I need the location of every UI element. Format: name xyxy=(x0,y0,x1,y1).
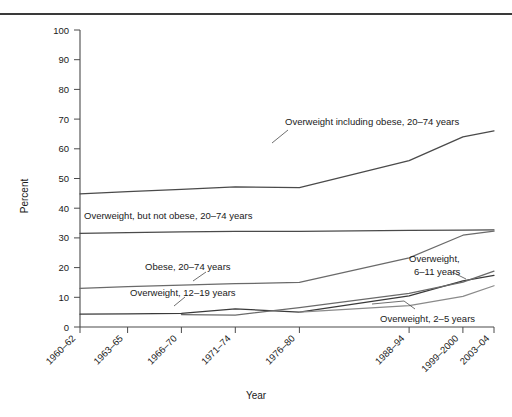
x-tick-label-1976-80: 1976–80 xyxy=(263,333,297,367)
series-line-overweight-including-obese xyxy=(80,131,494,194)
y-tick-label-90: 90 xyxy=(58,54,69,65)
x-tick-label-1999-2000: 1999–2000 xyxy=(419,333,460,374)
leader-overweight-12-19 xyxy=(174,297,185,306)
x-tick-label-1971-74: 1971–74 xyxy=(199,333,233,367)
y-tick-label-60: 60 xyxy=(58,143,69,154)
y-tick-label-50: 50 xyxy=(58,173,69,184)
label-overweight-2-5: Overweight, 2–5 years xyxy=(380,313,475,324)
y-tick-label-10: 10 xyxy=(58,292,69,303)
label-overweight-12-19: Overweight, 12–19 years xyxy=(130,287,236,298)
label-overweight-6-11-line1: Overweight, xyxy=(409,253,460,264)
label-overweight-including-obese: Overweight including obese, 20–74 years xyxy=(285,116,460,127)
y-tick-label-0: 0 xyxy=(64,322,69,333)
chart-figure: 100 90 80 70 60 50 40 30 20 10 0 Percent… xyxy=(0,0,512,417)
y-tick-marks xyxy=(74,30,80,327)
y-tick-label-80: 80 xyxy=(58,84,69,95)
y-tick-label-30: 30 xyxy=(58,232,69,243)
label-overweight-not-obese: Overweight, but not obese, 20–74 years xyxy=(84,210,253,221)
y-tick-label-40: 40 xyxy=(58,203,69,214)
x-tick-label-2003-04: 2003–04 xyxy=(457,333,491,367)
y-tick-label-70: 70 xyxy=(58,114,69,125)
y-axis-title: Percent xyxy=(19,179,30,214)
series-line-overweight-not-obese xyxy=(80,230,494,234)
y-tick-label-100: 100 xyxy=(53,25,69,36)
x-tick-label-1963-65: 1963–65 xyxy=(91,333,125,367)
leader-obese-20-74 xyxy=(193,272,206,281)
y-tick-label-20: 20 xyxy=(58,262,69,273)
x-tick-marks xyxy=(80,327,494,333)
line-chart-plot: 100 90 80 70 60 50 40 30 20 10 0 Percent… xyxy=(0,0,512,417)
x-tick-label-1960-62: 1960–62 xyxy=(43,333,77,367)
label-obese-20-74: Obese, 20–74 years xyxy=(145,261,231,272)
x-tick-label-1966-70: 1966–70 xyxy=(145,333,179,367)
leader-overweight-including-obese xyxy=(272,130,288,143)
x-tick-label-1988-94: 1988–94 xyxy=(373,333,407,367)
label-overweight-6-11-line2: 6–11 years xyxy=(414,266,461,277)
x-axis-title: Year xyxy=(246,390,267,401)
